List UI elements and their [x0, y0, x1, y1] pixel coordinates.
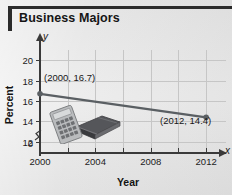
- calculator-icon: [49, 105, 82, 144]
- y-axis-tick-label: 14: [22, 116, 33, 127]
- y-axis-origin-label: 0: [28, 138, 33, 149]
- y-axis-tick-label: 16: [22, 96, 33, 107]
- x-axis-tick-label: 2012: [196, 156, 217, 167]
- x-axis-tick: [178, 148, 179, 153]
- x-axis-tick-label: 2004: [85, 156, 106, 167]
- data-point-marker: [37, 91, 43, 97]
- chart-figure: Business Majors y x (2000, 16.7) (2012, …: [0, 0, 232, 195]
- y-axis-tick-label: 20: [22, 55, 33, 66]
- clipart-group: [46, 99, 124, 144]
- y-axis-tick: [36, 121, 41, 122]
- y-axis-tick: [36, 60, 41, 61]
- x-axis-tick: [40, 148, 41, 153]
- x-axis-title: Year: [117, 176, 139, 188]
- x-axis-tick-label: 2008: [140, 156, 161, 167]
- y-axis-tick: [36, 101, 41, 102]
- y-axis-tick-label: 18: [22, 75, 33, 86]
- y-axis-tick: [36, 142, 41, 143]
- book-icon: [76, 116, 120, 139]
- x-axis-tick: [95, 148, 96, 153]
- x-axis-tick: [206, 148, 207, 153]
- y-axis-title: Percent: [3, 86, 15, 125]
- data-point-label-start: (2000, 16.7): [44, 72, 95, 83]
- x-axis-tick: [68, 148, 69, 153]
- data-point-label-end: (2012, 14.4): [160, 115, 211, 126]
- x-axis-tick: [123, 148, 124, 153]
- x-axis-tick: [151, 148, 152, 153]
- x-axis-tick-label: 2000: [29, 156, 50, 167]
- y-axis-tick: [36, 81, 41, 82]
